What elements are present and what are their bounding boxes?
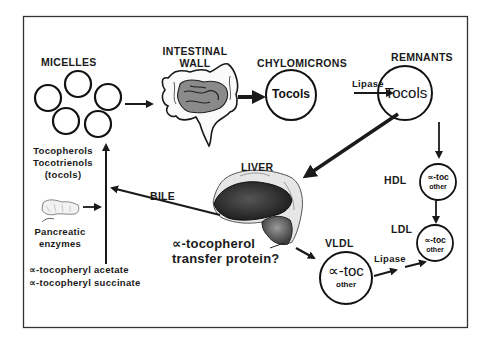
- ldl-content-main: ∝-toc: [417, 235, 453, 245]
- label-remnants: REMNANTS: [391, 51, 453, 63]
- label-enzymes: enzymes: [30, 238, 90, 250]
- label-tocotrienols: Tocotrienols: [27, 157, 99, 169]
- label-transfer-protein: ∝-tocopherol transfer protein?: [172, 236, 279, 266]
- intestine-illustration-icon: [162, 64, 237, 146]
- label-tocopheryl-acetate: ∝-tocopheryl acetate: [29, 263, 141, 276]
- label-transfer-protein-line2: transfer protein?: [172, 251, 279, 266]
- arrow-remnants-to-liver: [306, 114, 398, 176]
- arrow-vldl-lipase-2: [405, 262, 425, 267]
- chylomicrons-content: Tocols: [266, 87, 316, 101]
- label-tocols-paren: (tocols): [27, 169, 99, 181]
- label-intestinal-wall-line1: INTESTINAL: [157, 45, 233, 57]
- ldl-content: ∝-toc other: [417, 235, 453, 255]
- hdl-content-main: ∝-toc: [420, 172, 456, 182]
- hdl-content: ∝-toc other: [420, 172, 456, 192]
- vldl-content-sub: other: [320, 278, 372, 292]
- label-ldl: LDL: [391, 223, 412, 235]
- arrow-liver-to-vldl: [296, 248, 314, 258]
- label-intestinal-wall-line2: WALL: [157, 57, 233, 69]
- remnants-content: Tocols: [378, 84, 434, 101]
- hdl-content-sub: other: [420, 182, 456, 192]
- label-transfer-protein-line1: ∝-tocopherol: [172, 236, 279, 251]
- ldl-content-sub: other: [417, 245, 453, 255]
- pancreas-illustration-icon: [42, 200, 79, 222]
- label-hdl: HDL: [384, 174, 406, 186]
- label-micelles: MICELLES: [41, 56, 96, 68]
- label-lipase-1: Lipase: [352, 78, 384, 89]
- label-tocopheryl-succinate: ∝-tocopheryl succinate: [29, 276, 141, 289]
- label-liver: LIVER: [241, 161, 273, 173]
- vldl-content: ∝-toc other: [320, 264, 372, 292]
- label-pancreatic-enzymes: Pancreatic enzymes: [30, 226, 90, 250]
- label-chylomicrons: CHYLOMICRONS: [257, 57, 347, 69]
- label-esters: ∝-tocopheryl acetate ∝-tocopheryl succin…: [29, 263, 141, 289]
- label-lipase-2: Lipase: [374, 253, 406, 264]
- label-vldl: VLDL: [325, 237, 354, 249]
- arrow-vldl-lipase-1: [374, 270, 396, 276]
- vldl-content-main: ∝-toc: [320, 264, 372, 278]
- micelle-circles-icon: [35, 71, 121, 137]
- label-pancreatic: Pancreatic: [30, 226, 90, 238]
- label-bile: BILE: [150, 190, 175, 202]
- label-tocols: Tocopherols Tocotrienols (tocols): [27, 145, 99, 181]
- label-tocopherols: Tocopherols: [27, 145, 99, 157]
- label-intestinal-wall: INTESTINAL WALL: [157, 45, 233, 69]
